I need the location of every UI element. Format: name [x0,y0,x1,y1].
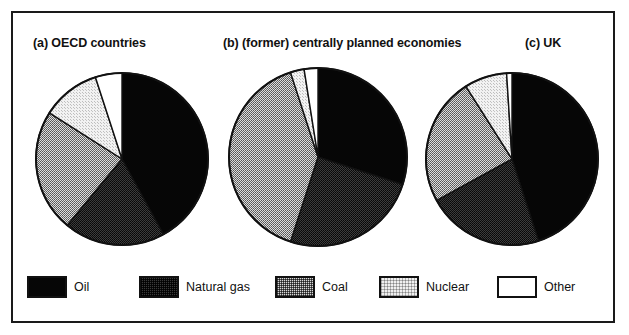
pie-chart-centrally-planned-economies [227,66,409,248]
legend-swatch-other [497,276,537,298]
legend-item-oil: Oil [27,272,89,302]
legend-swatch-coal [275,276,315,298]
legend-label-other: Other [544,280,575,294]
legend-label-coal: Coal [322,280,348,294]
legend-item-other: Other [497,272,575,302]
legend-label-natural-gas: Natural gas [186,280,250,294]
legend-label-nuclear: Nuclear [426,280,469,294]
legend-swatch-nuclear [379,276,419,298]
pie-chart-uk [424,71,600,247]
legend-swatch-natural-gas [139,276,179,298]
figure-canvas: (a) OECD countries (b) (former) centrall… [0,0,629,335]
pie-chart-oecd [34,71,210,247]
legend: Oil Natural gas Coal Nuclear Other [11,272,615,306]
legend-item-coal: Coal [275,272,348,302]
legend-item-natural-gas: Natural gas [139,272,250,302]
legend-item-nuclear: Nuclear [379,272,469,302]
legend-label-oil: Oil [74,280,89,294]
legend-swatch-oil [27,276,67,298]
